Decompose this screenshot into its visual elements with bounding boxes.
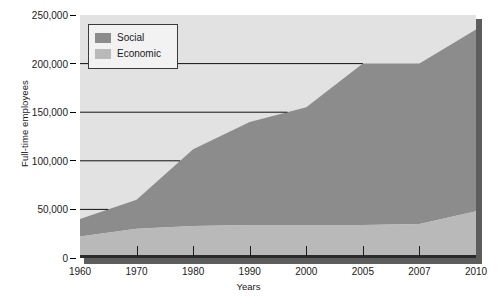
- x-tick-mark-1970: [137, 246, 138, 256]
- legend-label-economic: Economic: [117, 49, 161, 59]
- x-tick-1990: 1990: [220, 266, 280, 277]
- y-tick-mark: [70, 15, 76, 16]
- x-tick-2000: 2000: [276, 266, 336, 277]
- legend-item-social: Social: [95, 30, 171, 46]
- plot-bottom-edge-shadow: [84, 258, 482, 264]
- x-axis-line: [80, 255, 476, 258]
- stacked-area-chart: Full-time employees 050,000100,000150,00…: [0, 0, 497, 296]
- x-axis-title: Years: [0, 281, 497, 292]
- y-tick-mark: [70, 160, 76, 161]
- y-tick-150000: 150,000: [4, 107, 68, 118]
- y-tick-50000: 50,000: [4, 204, 68, 215]
- y-tick-0: 0: [4, 253, 68, 264]
- x-tick-mark-1980: [193, 246, 194, 256]
- y-tick-250000: 250,000: [4, 10, 68, 21]
- x-tick-2010: 2010: [446, 266, 497, 277]
- legend-swatch-economic: [95, 49, 111, 59]
- x-tick-mark-1990: [250, 246, 251, 256]
- y-tick-200000: 200,000: [4, 58, 68, 69]
- y-tick-mark: [70, 63, 76, 64]
- y-tick-mark: [70, 258, 76, 259]
- y-tick-100000: 100,000: [4, 155, 68, 166]
- x-tick-mark-2005: [363, 246, 364, 256]
- x-tick-2007: 2007: [389, 266, 449, 277]
- chart-legend: Social Economic: [88, 24, 178, 69]
- y-tick-mark: [70, 209, 76, 210]
- x-tick-mark-2007: [419, 246, 420, 256]
- x-tick-2005: 2005: [333, 266, 393, 277]
- legend-item-economic: Economic: [95, 46, 171, 62]
- y-tick-mark: [70, 112, 76, 113]
- legend-label-social: Social: [117, 33, 144, 43]
- legend-swatch-social: [95, 33, 111, 43]
- x-tick-1960: 1960: [50, 266, 110, 277]
- x-tick-1970: 1970: [107, 266, 167, 277]
- plot-right-edge-shadow: [476, 19, 482, 262]
- x-tick-1980: 1980: [163, 266, 223, 277]
- x-tick-mark-2000: [306, 246, 307, 256]
